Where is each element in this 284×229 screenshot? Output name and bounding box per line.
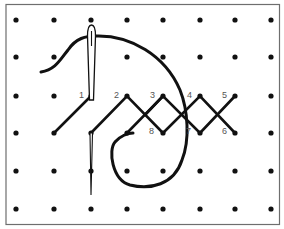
- grid-dot: [13, 17, 18, 22]
- grid-dot: [232, 17, 237, 22]
- stitch-label: 5: [222, 90, 227, 100]
- grid-dot: [13, 130, 18, 135]
- grid-dot: [51, 17, 56, 22]
- grid-dot: [268, 168, 273, 173]
- stitch-label: 6: [222, 126, 227, 136]
- grid-dot: [51, 54, 56, 59]
- grid-dot: [88, 206, 93, 211]
- grid-dot: [13, 168, 18, 173]
- grid-dot: [13, 206, 18, 211]
- grid-dot: [160, 17, 165, 22]
- grid-dot: [88, 17, 93, 22]
- grid-dot: [51, 93, 56, 98]
- grid-dot: [124, 168, 129, 173]
- stitch-label: 7: [186, 126, 191, 136]
- grid-dot: [124, 54, 129, 59]
- stitch-label: 8: [149, 126, 154, 136]
- grid-dot: [268, 17, 273, 22]
- grid-dot: [232, 168, 237, 173]
- grid-dot: [232, 206, 237, 211]
- grid-dot: [197, 54, 202, 59]
- grid-dot: [268, 130, 273, 135]
- cross-stitch-diagram: 12345678: [0, 0, 284, 229]
- grid-dot: [268, 54, 273, 59]
- grid-dot: [197, 168, 202, 173]
- stitch-label: 3: [150, 90, 155, 100]
- stitch-label: 1: [79, 90, 84, 100]
- grid-dot: [13, 54, 18, 59]
- grid-dot: [160, 168, 165, 173]
- stitch-label: 4: [187, 90, 192, 100]
- grid-dot: [160, 54, 165, 59]
- grid-dot: [51, 168, 56, 173]
- grid-dot: [197, 206, 202, 211]
- grid-dot: [268, 93, 273, 98]
- grid-dot: [51, 206, 56, 211]
- diagram-border: [6, 5, 280, 225]
- grid-dot: [124, 17, 129, 22]
- stitch-label: 2: [114, 90, 119, 100]
- grid-dot: [13, 93, 18, 98]
- grid-dot: [268, 206, 273, 211]
- grid-dot: [232, 54, 237, 59]
- grid-dot: [160, 206, 165, 211]
- grid-dot: [124, 206, 129, 211]
- grid-dot: [197, 17, 202, 22]
